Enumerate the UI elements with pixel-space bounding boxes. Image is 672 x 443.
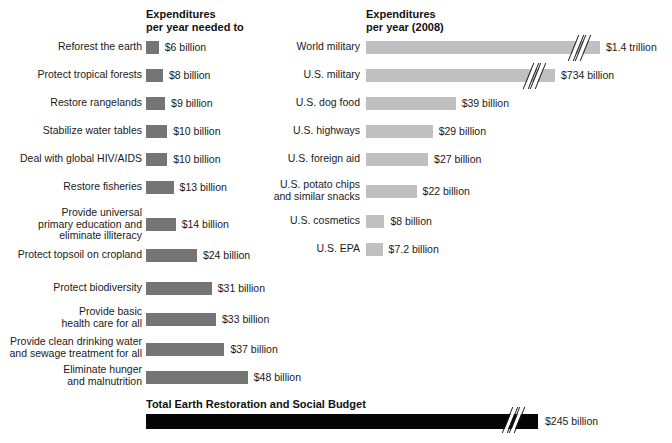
category-label: Provide clean drinking water and sewage … [0, 336, 142, 359]
category-label: U.S. cosmetics [254, 215, 360, 227]
value-label: $14 billion [182, 218, 229, 231]
bar-u-s-cosmetics [366, 215, 384, 228]
bar-protect-topsoil-on-cropland [146, 249, 197, 262]
bar-u-s-foreign-aid [366, 153, 428, 166]
value-label: $27 billion [434, 153, 481, 166]
value-label: $8 billion [169, 69, 210, 82]
category-label: Stabilize water tables [0, 125, 142, 137]
category-label: Restore fisheries [0, 181, 142, 193]
category-label: Protect biodiversity [0, 282, 142, 294]
value-label: $29 billion [439, 125, 486, 138]
value-label: $31 billion [218, 282, 265, 295]
category-label: U.S. highways [254, 125, 360, 137]
bar-u-s-dog-food [366, 97, 456, 110]
category-label: World military [254, 41, 360, 53]
bar-provide-clean-drinking-water [146, 343, 224, 356]
value-label: $33 billion [222, 313, 269, 326]
value-label: $39 billion [462, 97, 509, 110]
value-label: $7.2 billion [389, 243, 439, 256]
value-label: $1.4 trillion [606, 41, 657, 54]
value-label: $8 billion [390, 215, 431, 228]
bar-provide-basic [146, 313, 216, 326]
expenditures-comparison-chart: Expenditures per year needed to Expendit… [0, 0, 672, 443]
value-label: $10 billion [173, 153, 220, 166]
left-panel-header: Expenditures per year needed to [146, 8, 244, 33]
bar-deal-with-global-hiv-aids [146, 153, 167, 166]
bar-restore-rangelands [146, 97, 165, 110]
value-label: $734 billion [561, 69, 614, 82]
value-label: $10 billion [173, 125, 220, 138]
total-budget-title: Total Earth Restoration and Social Budge… [146, 398, 366, 410]
bar-reforest-the-earth [146, 41, 159, 54]
value-label: $13 billion [180, 181, 227, 194]
bar-stabilize-water-tables [146, 125, 167, 138]
total-value-label: $245 billion [545, 415, 598, 428]
category-label: Protect topsoil on cropland [0, 249, 142, 261]
category-label: U.S. military [254, 69, 360, 81]
right-panel-header: Expenditures per year (2008) [366, 8, 444, 33]
bar-restore-fisheries [146, 181, 174, 194]
value-label: $6 billion [165, 41, 206, 54]
axis-break-mark [504, 407, 526, 433]
category-label: Eliminate hunger and malnutrition [0, 364, 142, 387]
value-label: $22 billion [423, 185, 470, 198]
value-label: $24 billion [203, 249, 250, 262]
bar-protect-biodiversity [146, 282, 212, 295]
value-label: $37 billion [230, 343, 277, 356]
value-label: $9 billion [171, 97, 212, 110]
category-label: U.S. dog food [254, 97, 360, 109]
category-label: Reforest the earth [0, 41, 142, 53]
category-label: U.S. potato chips and similar snacks [254, 179, 360, 202]
category-label: Protect tropical forests [0, 69, 142, 81]
bar-u-s-highways [366, 125, 433, 138]
category-label: Provide universal primary education and … [0, 207, 142, 242]
bar-protect-tropical-forests [146, 69, 163, 82]
category-label: Deal with global HIV/AIDS [0, 153, 142, 165]
bar-provide-universal [146, 218, 176, 231]
category-label: U.S. foreign aid [254, 153, 360, 165]
bar-u-s-epa [366, 243, 383, 256]
bar-eliminate-hunger [146, 371, 248, 384]
axis-break-mark [570, 35, 592, 61]
category-label: Restore rangelands [0, 97, 142, 109]
bar-u-s-potato-chips [366, 185, 417, 198]
bar-total-earth-restoration-and-social-budget [146, 414, 538, 429]
value-label: $48 billion [254, 371, 301, 384]
category-label: U.S. EPA [254, 243, 360, 255]
bar-world-military [366, 41, 600, 54]
category-label: Provide basic health care for all [0, 306, 142, 329]
axis-break-mark [525, 63, 547, 89]
